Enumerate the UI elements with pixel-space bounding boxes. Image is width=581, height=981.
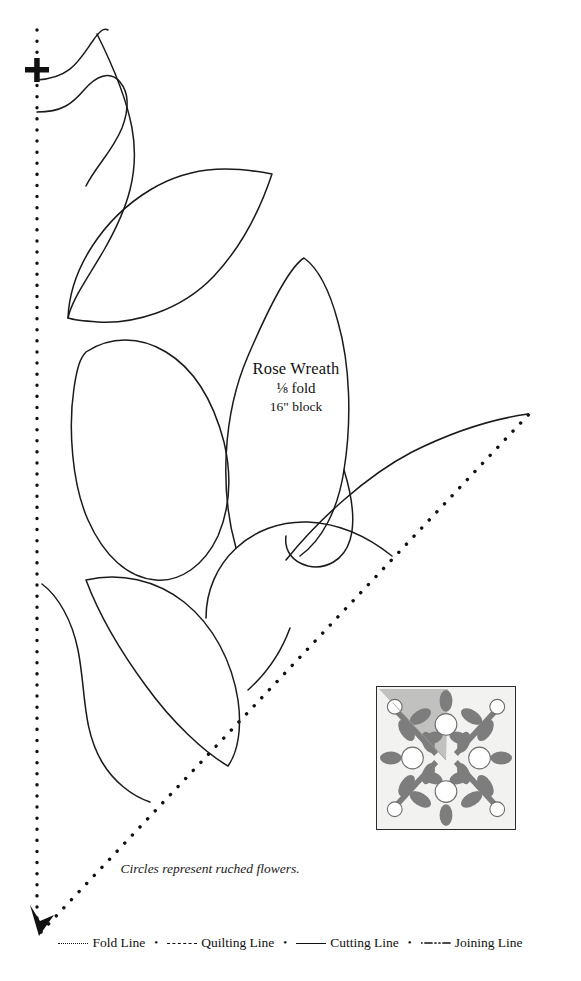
fold-vertex-arrowhead — [30, 905, 54, 936]
legend-label-fold-line: Fold Line — [92, 936, 145, 950]
rose-wreath-block-preview — [376, 686, 516, 830]
cutting-line-left-hook-leaf — [42, 584, 150, 802]
cutting-line-middle-leaf — [71, 340, 228, 580]
appliqué-template-drawing — [0, 0, 581, 981]
legend-item-joining-line: Joining Line — [421, 936, 523, 950]
cutting-line-petal-flourish — [286, 470, 353, 567]
pattern-page: Rose Wreath ⅛ fold 16" block — [0, 0, 581, 981]
legend-label-joining-line: Joining Line — [455, 936, 523, 950]
line-style-legend: Fold Line • Quilting Line • Cutting Line… — [0, 936, 581, 950]
cutting-line-upper-stem — [37, 76, 127, 186]
legend-item-quilting-line: Quilting Line — [167, 936, 274, 950]
legend-separator-3: • — [408, 937, 412, 948]
quilting-line-swatch-icon — [167, 939, 197, 947]
cutting-line-wreath-arc — [206, 522, 392, 618]
joining-line-swatch-icon — [421, 939, 451, 947]
block-preview-drawing — [377, 687, 515, 829]
flower-center-bottom — [435, 781, 457, 803]
flower-corner-tr — [490, 699, 505, 714]
cutting-line-lower-right-connector — [248, 628, 290, 690]
flower-center-right — [469, 747, 491, 769]
flower-corner-bl — [387, 802, 402, 817]
legend-separator-1: • — [154, 937, 158, 948]
legend-label-quilting-line: Quilting Line — [201, 936, 274, 950]
cutting-line-outer-arc — [286, 414, 528, 560]
block-size-label: 16" block — [216, 398, 376, 415]
legend-item-cutting-line: Cutting Line — [296, 936, 399, 950]
flower-corner-br — [490, 802, 505, 817]
pattern-caption: Circles represent ruched flowers. — [0, 861, 420, 877]
fold-line-swatch-icon — [58, 939, 88, 947]
diagonal-fold-line — [41, 412, 531, 932]
cutting-line-swatch-icon — [296, 939, 326, 947]
cutting-line-lower-leaf — [86, 577, 240, 766]
flower-corner-tl — [387, 699, 402, 714]
cutting-line-upper-large-leaf — [68, 169, 272, 322]
legend-separator-2: • — [283, 937, 287, 948]
legend-label-cutting-line: Cutting Line — [330, 936, 399, 950]
legend-item-fold-line: Fold Line — [58, 936, 145, 950]
pattern-title-block: Rose Wreath ⅛ fold 16" block — [216, 358, 376, 416]
fold-label: ⅛ fold — [216, 379, 376, 398]
page-title: Rose Wreath — [216, 358, 376, 379]
flower-center-left — [402, 747, 424, 769]
flower-center-top — [435, 714, 457, 736]
